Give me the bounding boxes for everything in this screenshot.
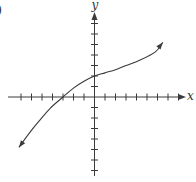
x-axis-arrow-icon (178, 94, 186, 100)
coordinate-plane (0, 0, 196, 182)
y-axis-label: y (92, 0, 99, 11)
graph-figure: ) x y (0, 0, 196, 182)
y-axis-arrow-icon (92, 12, 98, 20)
curve-end-arrow-icon (156, 42, 162, 49)
function-curve (19, 42, 163, 147)
curve-start-arrow-icon (19, 140, 25, 147)
x-axis-label: x (187, 90, 194, 102)
panel-label: ) (0, 3, 2, 16)
